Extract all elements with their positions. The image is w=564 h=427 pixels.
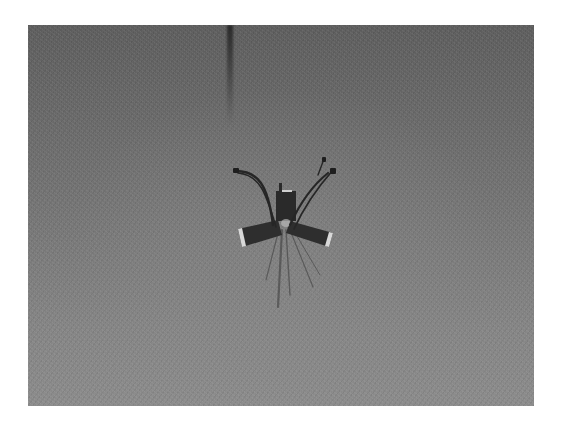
cable-ends [233,157,336,174]
shadow-legs [266,230,320,307]
photo [28,25,534,406]
right-paddle [286,221,333,247]
device-object [28,25,534,406]
